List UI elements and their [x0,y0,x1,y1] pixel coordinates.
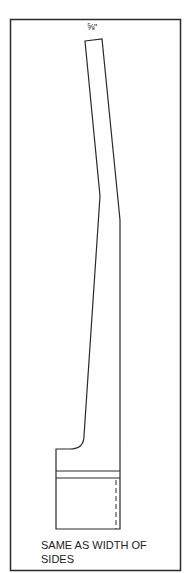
outer-frame [11,20,181,571]
caption-line-2: SIDES [41,552,147,566]
caption-line-1: SAME AS WIDTH OF [41,538,147,552]
dimension-label: ⅝" [87,22,97,32]
pattern-drawing [0,0,186,573]
leg-outline [56,39,120,529]
caption: SAME AS WIDTH OF SIDES [41,538,147,566]
